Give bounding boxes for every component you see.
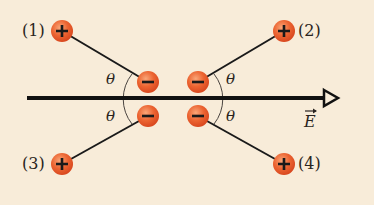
field-label: E bbox=[304, 114, 316, 130]
angle-label-1: θ bbox=[106, 72, 115, 87]
dipole-1-rod bbox=[62, 31, 148, 82]
dipole-label-4: (4) bbox=[298, 156, 321, 172]
dipole-label-3: (3) bbox=[22, 156, 45, 172]
positive-charge-4 bbox=[273, 153, 295, 175]
positive-charge-3 bbox=[51, 153, 73, 175]
negative-charge-3 bbox=[137, 105, 159, 127]
angle-label-4: θ bbox=[226, 109, 235, 124]
positive-charge-2 bbox=[273, 20, 295, 42]
negative-charge-2 bbox=[187, 71, 209, 93]
dipole-3-rod bbox=[62, 116, 148, 164]
negative-charge-4 bbox=[187, 105, 209, 127]
dipole-label-2: (2) bbox=[298, 23, 321, 39]
angle-label-2: θ bbox=[226, 72, 235, 87]
dipole-2-rod bbox=[198, 31, 284, 82]
angle-label-3: θ bbox=[106, 109, 115, 124]
field-arrowhead-icon bbox=[324, 90, 338, 106]
dipole-4-rod bbox=[198, 116, 284, 164]
positive-charge-1 bbox=[51, 20, 73, 42]
negative-charge-1 bbox=[137, 71, 159, 93]
dipole-label-1: (1) bbox=[22, 23, 45, 39]
